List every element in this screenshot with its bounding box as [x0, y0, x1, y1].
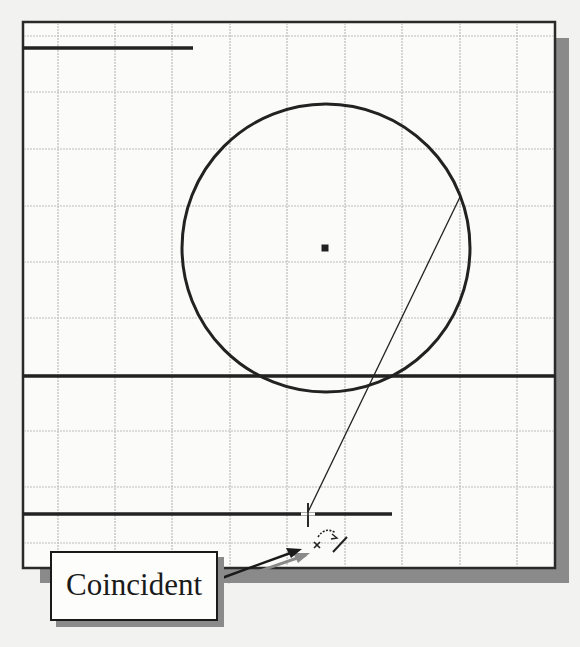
- circle-center-point[interactable]: [322, 245, 329, 252]
- sketch-canvas[interactable]: [0, 0, 580, 647]
- callout-label: Coincident: [66, 567, 202, 605]
- coincident-callout: Coincident: [50, 551, 218, 621]
- sketch-viewport[interactable]: [23, 22, 555, 568]
